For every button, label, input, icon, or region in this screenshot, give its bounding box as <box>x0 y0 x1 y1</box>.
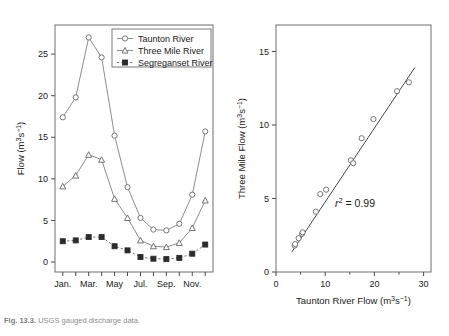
data-point-11 <box>203 242 208 247</box>
data-point-6 <box>318 191 323 196</box>
legend-label-2: Segreganset River <box>138 58 213 68</box>
data-point-2 <box>86 235 91 240</box>
data-point-1 <box>73 238 78 243</box>
data-point-5 <box>313 209 318 214</box>
scatter-points <box>292 80 411 248</box>
figure-caption: Fig. 13.3. USGS gauged discharge data. <box>4 316 424 325</box>
data-point-6 <box>138 215 143 220</box>
data-point-10 <box>189 225 195 231</box>
legend-marker-0 <box>122 36 127 41</box>
data-point-1 <box>73 173 79 179</box>
x-axis-label: Taunton River Flow (m3s−1) <box>296 295 411 306</box>
data-point-4 <box>112 196 118 202</box>
data-point-3 <box>99 157 105 163</box>
data-point-9 <box>351 161 356 166</box>
y-tick-label: 20 <box>38 91 48 101</box>
x-tick-label: Jul. <box>133 279 147 289</box>
data-point-3 <box>99 235 104 240</box>
series-line-2 <box>63 237 205 259</box>
data-point-0 <box>60 239 65 244</box>
data-point-5 <box>125 185 130 190</box>
series-markers-2 <box>60 235 207 262</box>
x-tick-label: Sep. <box>157 279 176 289</box>
plot-frame <box>276 25 431 272</box>
y-tick-label: 15 <box>259 47 269 57</box>
data-point-1 <box>293 241 298 246</box>
data-point-12 <box>394 89 399 94</box>
data-point-11 <box>202 197 208 203</box>
x-tick-label: Jan. <box>54 279 71 289</box>
chart-panel-monthly-flow: 0510152025Jan.Mar.MayJul.Sep.Nov.Flow (m… <box>0 0 228 312</box>
data-point-5 <box>125 248 130 253</box>
data-point-5 <box>125 215 131 221</box>
data-point-6 <box>138 255 143 260</box>
y-axis-label: Three Mile Flow (m3s−1) <box>236 98 247 199</box>
y-axis-label: Flow (m3s−1) <box>15 122 26 176</box>
data-point-0 <box>60 115 65 120</box>
legend-label-0: Taunton River <box>138 34 194 44</box>
chart-panel-regression: 0510150102030r2 = 0.99Three Mile Flow (m… <box>228 0 449 312</box>
monthly-flow-svg: 0510152025Jan.Mar.MayJul.Sep.Nov.Flow (m… <box>0 0 228 312</box>
data-point-10 <box>359 136 364 141</box>
data-point-9 <box>177 221 182 226</box>
data-point-3 <box>99 55 104 60</box>
y-tick-label: 0 <box>264 267 269 277</box>
y-tick-label: 5 <box>264 194 269 204</box>
figure-caption-label: Fig. 13.3. <box>4 316 36 325</box>
data-point-2 <box>296 236 301 241</box>
figure-caption-text: USGS gauged discharge data. <box>38 316 140 325</box>
data-point-7 <box>151 227 156 232</box>
y-tick-label: 0 <box>43 257 48 267</box>
data-point-0 <box>122 36 127 41</box>
r-squared-annotation: r2 = 0.99 <box>335 196 375 209</box>
data-point-7 <box>324 187 329 192</box>
data-point-10 <box>190 251 195 256</box>
data-point-4 <box>300 230 305 235</box>
data-point-10 <box>190 192 195 197</box>
data-point-8 <box>164 228 169 233</box>
regression-svg: 0510150102030r2 = 0.99Three Mile Flow (m… <box>228 0 449 312</box>
data-point-9 <box>177 255 182 260</box>
data-point-8 <box>164 257 169 262</box>
data-point-7 <box>151 256 156 261</box>
data-point-2 <box>123 60 128 65</box>
data-point-11 <box>371 116 376 121</box>
y-tick-label: 5 <box>43 216 48 226</box>
y-tick-label: 10 <box>259 120 269 130</box>
data-point-4 <box>112 244 117 249</box>
figure-container: 0510152025Jan.Mar.MayJul.Sep.Nov.Flow (m… <box>0 0 449 336</box>
x-tick-label: 20 <box>369 279 379 289</box>
data-point-13 <box>406 80 411 85</box>
data-point-1 <box>73 95 78 100</box>
x-tick-label: 0 <box>273 279 278 289</box>
data-point-2 <box>86 35 91 40</box>
data-point-11 <box>203 129 208 134</box>
x-tick-label: May <box>106 279 124 289</box>
data-point-2 <box>86 152 92 158</box>
series-line-1 <box>63 155 205 247</box>
y-tick-label: 10 <box>38 174 48 184</box>
data-point-6 <box>137 237 143 243</box>
legend-label-1: Three Mile River <box>138 46 204 56</box>
y-tick-label: 15 <box>38 132 48 142</box>
data-point-4 <box>112 133 117 138</box>
x-tick-label: Mar. <box>80 279 98 289</box>
y-tick-label: 25 <box>38 49 48 59</box>
x-tick-label: 30 <box>419 279 429 289</box>
x-tick-label: Nov. <box>183 279 201 289</box>
x-tick-label: 10 <box>320 279 330 289</box>
legend-marker-2 <box>123 60 128 65</box>
